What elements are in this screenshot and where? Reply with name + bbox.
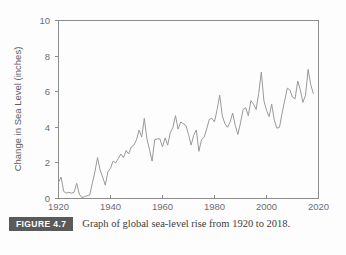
- y-tick-label-2: 2: [45, 157, 50, 168]
- x-tick-label-1960: 1960: [152, 201, 173, 212]
- y-tick-label-4: 4: [45, 122, 50, 133]
- sea-level-series-line: [59, 69, 314, 197]
- y-tick-label-10: 10: [39, 15, 50, 26]
- chart-axes: [59, 21, 319, 199]
- chart-svg: 10 8 6 4 2 0 1920 1940 1960 19: [0, 0, 346, 212]
- x-tick-label-2020: 2020: [308, 201, 329, 212]
- y-axis-ticks: [55, 21, 59, 199]
- figure-container: 10 8 6 4 2 0 1920 1940 1960 19: [0, 0, 346, 255]
- x-axis-tick-labels: 1920 1940 1960 1980 2000 2020: [48, 201, 329, 212]
- sea-level-chart: 10 8 6 4 2 0 1920 1940 1960 19: [0, 0, 346, 212]
- y-axis-title: Change in Sea Level (inches): [12, 47, 23, 172]
- x-tick-label-1980: 1980: [204, 201, 225, 212]
- x-axis-ticks: [59, 195, 319, 199]
- figure-caption-text: Graph of global sea-level rise from 1920…: [82, 218, 290, 230]
- figure-number-badge: FIGURE 4.7: [9, 217, 73, 231]
- y-axis-tick-labels: 10 8 6 4 2 0: [39, 15, 50, 204]
- figure-caption-bar: FIGURE 4.7 Graph of global sea-level ris…: [0, 212, 346, 255]
- x-tick-label-2000: 2000: [256, 201, 277, 212]
- x-tick-label-1940: 1940: [100, 201, 121, 212]
- y-tick-label-8: 8: [45, 51, 50, 62]
- x-tick-label-1920: 1920: [48, 201, 69, 212]
- y-tick-label-6: 6: [45, 86, 50, 97]
